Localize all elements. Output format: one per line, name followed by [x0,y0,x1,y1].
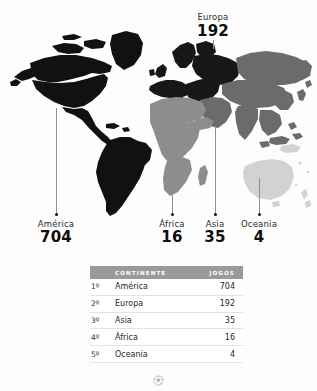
callout-europa: Europa 192 [183,13,243,39]
cell-rank: 2º [90,295,113,312]
cell-continente: África [113,329,193,346]
cell-jogos: 16 [193,329,243,346]
table-row: 4º África 16 [90,329,243,346]
callout-oceania: Oceania 4 [232,220,286,245]
table-row: 3º Asia 35 [90,312,243,329]
leader-dot-america [55,213,58,216]
cell-rank: 1º [90,279,113,295]
callout-oceania-value: 4 [232,230,286,245]
cell-continente: América [113,279,193,295]
callout-africa: África 16 [148,220,196,245]
cell-rank: 3º [90,312,113,329]
cell-jogos: 4 [193,346,243,363]
leader-dot-asia [214,213,217,216]
cell-continente: Europa [113,295,193,312]
callout-america-value: 704 [21,230,91,245]
leader-dot-oceania [258,213,261,216]
cell-continente: Asia [113,312,193,329]
table-row: 2º Europa 192 [90,295,243,312]
ranking-table-body: 1º América 704 2º Europa 192 3º Asia 35 … [90,279,243,362]
cell-jogos: 192 [193,295,243,312]
leader-line-america [56,108,57,214]
column-header-continente: CONTINENTE [113,266,193,279]
footer-mark [0,370,317,389]
cell-jogos: 704 [193,279,243,295]
map-region-america [10,31,152,216]
callout-europa-label: Europa [183,13,243,22]
table-header-row: CONTINENTE JOGOS [90,266,243,279]
cell-continente: Oceania [113,346,193,363]
soccer-ball-icon [153,375,164,386]
leader-dot-africa [171,213,174,216]
ranking-table-head: CONTINENTE JOGOS [90,266,243,279]
cell-rank: 5º [90,346,113,363]
map-region-africa [150,97,214,196]
cell-jogos: 35 [193,312,243,329]
table-row: 5º Oceania 4 [90,346,243,363]
callout-europa-value: 192 [183,24,243,39]
world-map [0,0,317,230]
callout-africa-value: 16 [148,230,196,245]
leader-line-oceania [259,178,260,214]
leader-dot-europa [212,49,215,52]
cell-rank: 4º [90,329,113,346]
infographic-root: Europa 192 América 704 África 16 Asia 35… [0,0,317,391]
column-header-jogos: JOGOS [193,266,243,279]
leader-line-africa [172,130,173,214]
ranking-table: CONTINENTE JOGOS 1º América 704 2º Europ… [90,266,243,363]
table-row: 1º América 704 [90,279,243,295]
map-region-oceania [243,144,311,208]
column-header-rank [90,266,113,279]
leader-line-asia [215,126,216,214]
callout-america: América 704 [21,220,91,245]
